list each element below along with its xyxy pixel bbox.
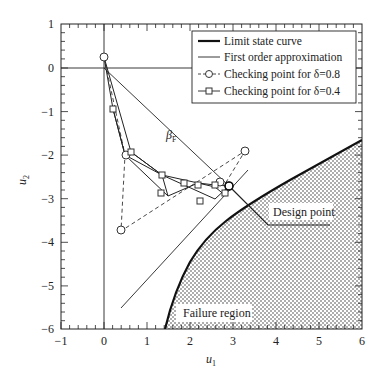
circle-marker (117, 226, 125, 234)
circle-marker (100, 53, 108, 61)
failure-region-label: Failure region (183, 306, 251, 320)
x-tick-labels: −1 0 1 2 3 4 5 6 (55, 334, 365, 348)
failure-region (165, 140, 362, 329)
square-marker (128, 149, 134, 155)
square-marker (195, 182, 201, 188)
design-point-label: Design point (273, 205, 335, 219)
x-tick-label: 4 (273, 334, 279, 348)
y-tick-label: −5 (41, 279, 54, 293)
square-marker (158, 190, 164, 196)
x-tick-label: −1 (55, 334, 68, 348)
chart-figure: −1 0 1 2 3 4 5 6 1 0 −1 −2 −3 −4 −5 −6 u… (0, 0, 381, 375)
svg-text:First order approximation: First order approximation (224, 51, 342, 64)
square-marker (222, 190, 228, 196)
x-tick-label: 2 (187, 334, 193, 348)
square-marker (159, 172, 165, 178)
square-marker (212, 182, 218, 188)
legend: Limit state curve First order approximat… (192, 31, 356, 103)
y-tick-label: 0 (48, 61, 54, 75)
y-axis-label: u2 (15, 175, 31, 185)
svg-text:Checking point for δ=0.4: Checking point for δ=0.4 (224, 85, 340, 98)
x-tick-label: 3 (230, 334, 236, 348)
y-tick-labels: 1 0 −1 −2 −3 −4 −5 −6 (41, 17, 54, 336)
svg-text:Checking point for δ=0.8: Checking point for δ=0.8 (224, 68, 340, 81)
x-tick-label: 5 (316, 334, 322, 348)
x-tick-label: 6 (359, 334, 365, 348)
square-marker (181, 180, 187, 186)
y-tick-label: −3 (41, 192, 54, 206)
svg-text:Limit state curve: Limit state curve (224, 35, 302, 47)
square-marker (197, 198, 203, 204)
circle-marker (241, 147, 249, 155)
x-tick-label: 0 (101, 334, 107, 348)
square-marker (110, 106, 116, 112)
y-tick-label: −6 (41, 322, 54, 336)
x-axis-label: u1 (206, 352, 216, 368)
beta-f-label: βF (165, 128, 177, 144)
y-tick-label: −1 (41, 105, 54, 119)
markers-delta-0.4 (110, 106, 228, 204)
y-tick-label: −2 (41, 148, 54, 162)
y-tick-label: −4 (41, 235, 54, 249)
x-tick-label: 1 (144, 334, 150, 348)
y-tick-label: 1 (48, 17, 54, 31)
